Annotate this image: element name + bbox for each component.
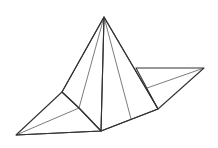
base-outline — [16, 109, 158, 135]
right-flap-fold-line — [147, 68, 204, 88]
left-pyramid-face — [62, 17, 104, 131]
front-face-inner-line — [104, 17, 131, 119]
left-flap-fold-line — [16, 108, 79, 135]
pyramid-diagram — [0, 0, 218, 148]
left-flap — [16, 92, 101, 135]
left-face-edge — [79, 17, 104, 108]
pyramid-outline — [62, 17, 158, 109]
